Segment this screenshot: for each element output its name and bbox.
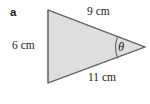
side-label-bottom: 11 cm: [88, 72, 116, 84]
side-label-top: 9 cm: [87, 6, 110, 18]
geometry-figure: a 6 cm 9 cm 11 cm θ: [0, 0, 150, 104]
side-label-left: 6 cm: [12, 40, 35, 52]
triangle-diagram: [0, 0, 150, 104]
part-label: a: [10, 7, 16, 19]
angle-label-theta: θ: [118, 41, 124, 54]
